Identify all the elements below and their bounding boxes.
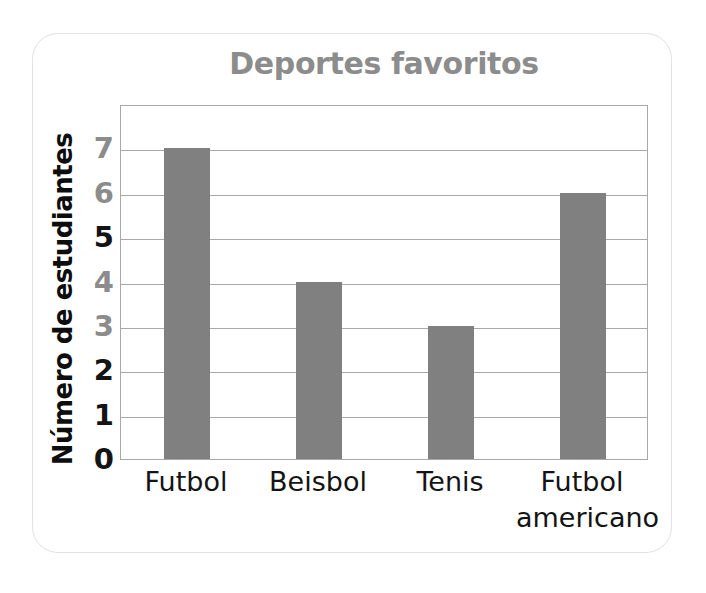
x-axis-tick-label: Beisbol	[252, 464, 384, 500]
plot-area	[120, 105, 648, 460]
x-axis-tick-label-line: Tenis	[384, 464, 516, 500]
x-axis-tick-labels: FutbolBeisbolTenisFutbolamericano	[120, 464, 648, 554]
x-axis-tick-label: Tenis	[384, 464, 516, 500]
x-axis-tick-label-line: Futbol	[516, 464, 648, 500]
bar	[428, 326, 474, 459]
chart-title: Deportes favoritos	[120, 46, 648, 81]
bar	[560, 193, 606, 459]
y-axis-tick-label: 4	[68, 268, 114, 297]
y-axis-tick-label: 6	[68, 179, 114, 208]
x-axis-tick-label: Futbol	[120, 464, 252, 500]
x-axis-tick-label-line: Beisbol	[252, 464, 384, 500]
x-axis-tick-label: Futbolamericano	[516, 464, 648, 535]
bar	[164, 148, 210, 459]
y-axis-tick-label: 1	[68, 401, 114, 430]
y-axis-tick-label: 2	[68, 356, 114, 385]
bar	[296, 282, 342, 460]
y-axis-tick-label: 5	[68, 223, 114, 252]
y-axis-tick-label: 7	[68, 134, 114, 163]
x-axis-tick-label-line: americano	[516, 500, 648, 536]
y-axis-tick-labels: 76543210	[60, 105, 114, 460]
y-axis-tick-label: 3	[68, 312, 114, 341]
x-axis-tick-label-line: Futbol	[120, 464, 252, 500]
y-axis-tick-label: 0	[68, 445, 114, 474]
